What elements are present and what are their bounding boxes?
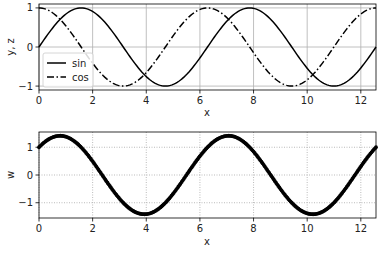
xtick-label: 10 — [301, 95, 314, 106]
legend: sin cos — [43, 53, 93, 87]
xtick-label: 8 — [250, 223, 256, 234]
ytick-label: 1 — [27, 142, 33, 153]
xtick-label: 4 — [143, 223, 149, 234]
xtick-label: 6 — [197, 95, 203, 106]
top-ylabel: y, z — [5, 38, 16, 56]
xtick-label: 12 — [354, 223, 367, 234]
legend-cos-label: cos — [72, 72, 89, 83]
ytick-label: −1 — [18, 197, 33, 208]
xtick-label: 0 — [36, 95, 42, 106]
xtick-label: 8 — [250, 95, 256, 106]
xtick-label: 10 — [301, 223, 314, 234]
legend-sin-label: sin — [72, 58, 86, 69]
ytick-label: −1 — [18, 81, 33, 92]
bottom-axes: 02468101210−1 x w — [5, 132, 378, 247]
ytick-label: 0 — [27, 42, 33, 53]
bottom-xlabel: x — [204, 236, 210, 247]
bottom-ticks: 02468101210−1 — [18, 142, 367, 234]
top-axes: 02468101210−1 x y, z sin cos — [5, 2, 376, 118]
figure: 02468101210−1 x y, z sin cos 02468101210… — [0, 0, 386, 256]
ytick-label: 0 — [27, 170, 33, 181]
bottom-ylabel: w — [5, 171, 16, 179]
xtick-label: 2 — [89, 95, 95, 106]
xtick-label: 2 — [89, 223, 95, 234]
xtick-label: 4 — [143, 95, 149, 106]
xtick-label: 6 — [197, 223, 203, 234]
ytick-label: 1 — [27, 2, 33, 13]
top-xlabel: x — [204, 107, 210, 118]
xtick-label: 0 — [36, 223, 42, 234]
xtick-label: 12 — [354, 95, 367, 106]
